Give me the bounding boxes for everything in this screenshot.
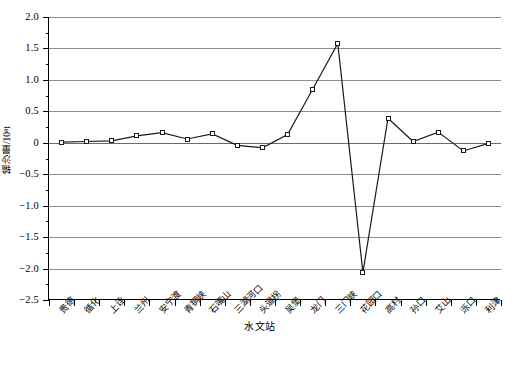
series-line (49, 17, 501, 300)
data-point-marker (285, 132, 290, 137)
data-point-marker (335, 41, 340, 46)
data-point-marker (210, 131, 215, 136)
x-axis-title: 水文站 (0, 318, 520, 333)
data-point-marker (436, 130, 441, 135)
data-point-marker (109, 138, 114, 143)
y-tick-label: 0.5 (0, 106, 39, 117)
data-point-marker (310, 87, 315, 92)
data-point-marker (461, 148, 466, 153)
y-tick-label: −1.0 (0, 201, 39, 212)
data-point-marker (185, 137, 190, 142)
data-point-marker (411, 139, 416, 144)
y-tick-label: −1.5 (0, 232, 39, 243)
y-tick-label: 1.5 (0, 43, 39, 54)
x-tick (49, 300, 50, 306)
data-point-marker (59, 140, 64, 145)
y-tick-label: 0 (0, 138, 39, 149)
data-point-marker (134, 133, 139, 138)
y-tick-label: 2.0 (0, 12, 39, 23)
y-tick-label: −2.5 (0, 295, 39, 306)
data-point-marker (160, 130, 165, 135)
data-point-marker (486, 141, 491, 146)
y-tick-label: −2.0 (0, 264, 39, 275)
sediment-load-line-chart: 输沙量/10⁸t 2.01.51.00.50−0.5−1.0−1.5−2.0−2… (0, 0, 520, 366)
data-point-marker (84, 139, 89, 144)
data-point-marker (386, 116, 391, 121)
y-tick-label: −0.5 (0, 169, 39, 180)
data-point-marker (260, 145, 265, 150)
data-point-marker (360, 270, 365, 275)
y-axis-title: 输沙量/10⁸t (2, 126, 16, 174)
data-point-marker (235, 143, 240, 148)
plot-area (48, 17, 500, 300)
y-tick-label: 1.0 (0, 75, 39, 86)
